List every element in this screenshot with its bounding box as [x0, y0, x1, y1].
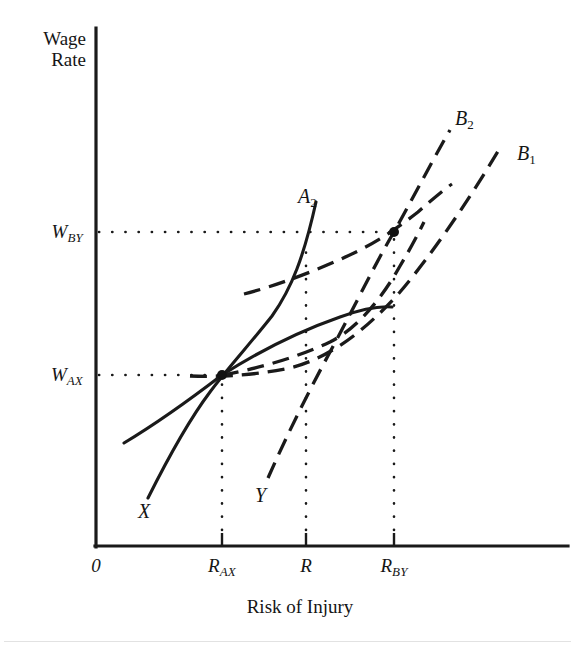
y-tick-label-w-ax: WAX: [13, 364, 83, 388]
y-tick-sub-w-by: BY: [67, 230, 83, 245]
x-tick-sub-r-ax: AX: [220, 564, 236, 579]
x-tick-sub-r-by: BY: [392, 564, 408, 579]
indifference-curve-plot: [0, 0, 575, 649]
x-tick-base-r: R: [300, 555, 312, 576]
curve-Y: [222, 222, 424, 375]
x-tick-base-r-by: R: [380, 555, 392, 576]
curve-label-b2-sub: 2: [467, 117, 474, 132]
tangency-point-ax: [217, 370, 227, 380]
curve-label-a2: A2: [298, 185, 317, 210]
curve-label-a2-base: A: [298, 185, 310, 207]
x-tick-label-r: R: [271, 555, 341, 579]
y-axis-title: Wage Rate: [14, 28, 86, 71]
y-tick-base-w-by: W: [52, 221, 68, 242]
x-axis-tick-marks: [222, 533, 394, 546]
curve-label-b2: B2: [455, 107, 474, 132]
curve-label-y-base: Y: [255, 484, 266, 506]
origin-label: 0: [61, 555, 131, 576]
curve-A2-dashed: [244, 184, 452, 294]
x-tick-label-r-by: RBY: [359, 555, 429, 579]
x-axis-title: Risk of Injury: [150, 596, 450, 617]
curve-label-y: Y: [255, 484, 266, 506]
curve-label-b1: B1: [517, 142, 536, 167]
tangency-point-by: [389, 227, 399, 237]
y-axis-title-line2: Rate: [14, 49, 86, 70]
y-tick-sub-w-ax: AX: [67, 373, 83, 388]
y-tick-label-w-by: WBY: [13, 221, 83, 245]
curve-label-a2-sub: 2: [310, 195, 317, 210]
y-axis-title-line1: Wage: [14, 28, 86, 49]
guide-lines: [99, 232, 396, 530]
figure-canvas: Wage Rate Risk of Injury 0 WBY WAX RAX R…: [0, 0, 575, 649]
tangency-markers: [217, 227, 399, 380]
dashed-curves: [190, 130, 500, 478]
solid-curves: [124, 202, 392, 498]
curve-label-b2-base: B: [455, 107, 467, 129]
page-bottom-rule: [4, 641, 571, 642]
curve-label-b1-base: B: [517, 142, 529, 164]
y-tick-base-w-ax: W: [51, 364, 67, 385]
x-tick-base-r-ax: R: [208, 555, 220, 576]
curve-B1: [190, 148, 500, 376]
curve-label-x: X: [138, 500, 150, 522]
curve-label-b1-sub: 1: [529, 152, 536, 167]
x-tick-label-r-ax: RAX: [187, 555, 257, 579]
curve-label-x-base: X: [138, 500, 150, 522]
curve-X: [148, 202, 316, 498]
curve-B2: [268, 130, 450, 478]
